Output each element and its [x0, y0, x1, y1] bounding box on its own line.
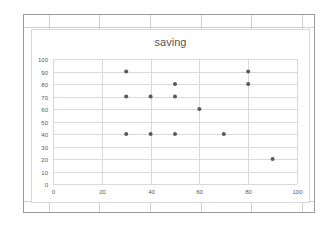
- y-tick-label: 80: [41, 82, 48, 88]
- y-tick-label: 60: [41, 107, 48, 113]
- sheet-row-line: [24, 27, 314, 28]
- data-point: [246, 70, 250, 74]
- data-point: [222, 132, 226, 136]
- data-point: [173, 95, 177, 99]
- x-tick-label: 0: [52, 189, 56, 195]
- data-point: [124, 70, 128, 74]
- chart-container[interactable]: saving 010203040506070809010002040608010…: [31, 29, 310, 203]
- y-tick-label: 0: [45, 182, 49, 188]
- x-tick-label: 60: [196, 189, 203, 195]
- data-point: [124, 132, 128, 136]
- x-tick-label: 80: [245, 189, 252, 195]
- y-tick-label: 40: [41, 132, 48, 138]
- data-point: [271, 157, 275, 161]
- y-tick-label: 10: [41, 170, 48, 176]
- data-point: [197, 107, 201, 111]
- data-point: [173, 132, 177, 136]
- data-point: [173, 82, 177, 86]
- y-tick-label: 70: [41, 95, 48, 101]
- x-tick-label: 100: [292, 189, 303, 195]
- y-tick-label: 100: [38, 57, 49, 63]
- data-point: [246, 82, 250, 86]
- data-point: [149, 132, 153, 136]
- y-tick-label: 90: [41, 70, 48, 76]
- y-tick-label: 20: [41, 157, 48, 163]
- data-point: [149, 95, 153, 99]
- data-point: [124, 95, 128, 99]
- y-tick-label: 50: [41, 120, 48, 126]
- x-tick-label: 40: [148, 189, 155, 195]
- x-tick-label: 20: [99, 189, 106, 195]
- y-tick-label: 30: [41, 145, 48, 151]
- scatter-plot: 0102030405060708090100020406080100: [32, 30, 311, 204]
